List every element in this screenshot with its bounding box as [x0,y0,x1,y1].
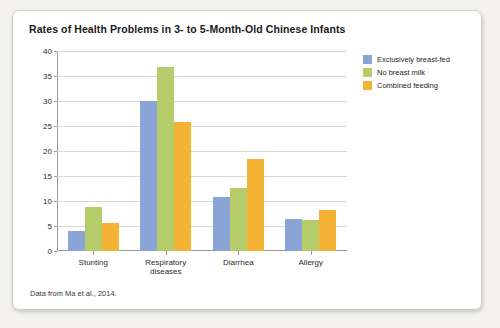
y-tick-label: 5 [48,222,52,231]
bar [230,188,247,252]
bar-group: Stunting [57,51,130,251]
chart-card: Rates of Health Problems in 3- to 5-Mont… [12,10,482,310]
legend-swatch [363,55,372,64]
y-tick-label: 35 [43,72,52,81]
x-tick-mark [166,251,167,255]
bar [302,220,319,252]
x-tick-mark [311,251,312,255]
legend-item: No breast milk [363,68,479,77]
bar [213,197,230,251]
x-tick-mark [93,251,94,255]
legend-swatch [363,68,372,77]
bar [102,223,119,252]
bar [68,231,85,251]
legend-item: Exclusively breast-fed [363,55,479,64]
y-tick-label: 30 [43,97,52,106]
plot-area: 0510152025303540 StuntingRespiratory dis… [57,51,347,251]
bar-group-bars [202,51,275,251]
y-tick-mark [54,251,57,252]
y-tick-label: 40 [43,47,52,56]
x-tick-label: Diarrhea [223,258,254,267]
bar-group-bars [57,51,130,251]
legend-swatch [363,81,372,90]
bar-group: Respiratory diseases [130,51,203,251]
bar-group-bars [275,51,348,251]
y-tick-label: 20 [43,147,52,156]
legend-label: Exclusively breast-fed [377,55,450,64]
bar-group: Allergy [275,51,348,251]
chart-legend: Exclusively breast-fedNo breast milkComb… [363,55,479,94]
bar [140,101,157,251]
source-note: Data from Ma et al., 2014. [30,289,117,298]
bar [247,159,264,252]
y-tick-label: 15 [43,172,52,181]
screenshot-page: Rates of Health Problems in 3- to 5-Mont… [0,0,500,328]
legend-label: No breast milk [377,68,425,77]
bar [174,122,191,251]
y-tick-label: 25 [43,122,52,131]
x-tick-label: Allergy [299,258,323,267]
x-tick-mark [238,251,239,255]
x-tick-label: Stunting [79,258,108,267]
legend-item: Combined feeding [363,81,479,90]
bar-group-bars [130,51,203,251]
y-tick-label: 10 [43,197,52,206]
bar [85,207,102,251]
y-tick-label: 0 [48,247,52,256]
bar-group: Diarrhea [202,51,275,251]
bar-groups: StuntingRespiratory diseasesDiarrheaAlle… [57,51,347,251]
page-title: Rates of Health Problems in 3- to 5-Mont… [29,23,345,35]
bar [157,67,174,251]
legend-label: Combined feeding [377,81,438,90]
x-tick-label: Respiratory diseases [145,258,186,276]
bar [285,219,302,251]
bar [319,210,336,252]
